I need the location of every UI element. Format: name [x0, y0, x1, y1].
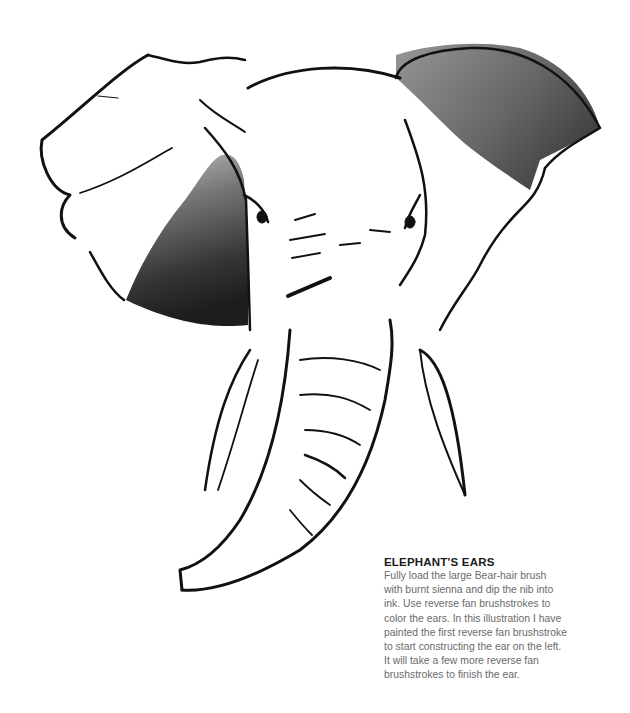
- caption-line: color the ears. In this illustration I h…: [384, 613, 561, 624]
- caption-line: painted the first reverse fan brushstrok…: [384, 627, 567, 638]
- caption-line: to start constructing the ear on the lef…: [384, 641, 561, 652]
- right-ear-wash: [396, 44, 600, 190]
- caption-body: Fully load the large Bear-hair brush wit…: [384, 569, 624, 683]
- caption-line: Fully load the large Bear-hair brush: [384, 570, 546, 581]
- caption-block: ELEPHANT'S EARS Fully load the large Bea…: [384, 556, 624, 683]
- caption-line: ink. Use reverse fan brushstrokes to: [384, 598, 550, 609]
- caption-line: with burnt sienna and dip the nib into: [384, 584, 553, 595]
- left-ear-wash: [126, 154, 248, 326]
- caption-line: It will take a few more reverse fan: [384, 655, 539, 666]
- caption-line: brushstrokes to finish the ear.: [384, 669, 520, 680]
- caption-title: ELEPHANT'S EARS: [384, 556, 624, 568]
